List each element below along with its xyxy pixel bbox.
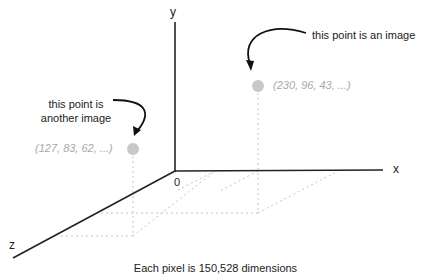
- origin-label: 0: [174, 176, 180, 188]
- projection-lines-left-point: [60, 156, 215, 236]
- data-point-right: [252, 80, 264, 92]
- point-right-coords: (230, 96, 43, ...): [273, 79, 351, 91]
- caption: Each pixel is 150,528 dimensions: [0, 262, 431, 274]
- data-point-left: [127, 143, 139, 155]
- x-axis-label: x: [393, 162, 399, 176]
- arrow-right-icon: [248, 29, 306, 64]
- z-axis-label: z: [9, 238, 15, 252]
- annotation-right: this point is an image: [312, 29, 415, 42]
- y-axis-label: y: [170, 5, 176, 19]
- annotation-left-line1: this point is: [36, 98, 116, 111]
- annotation-left-line2: another image: [36, 112, 116, 125]
- x-axis: [175, 170, 383, 171]
- arrow-left-icon: [113, 100, 145, 130]
- point-left-coords: (127, 83, 62, ...): [35, 142, 113, 154]
- z-axis: [13, 171, 175, 258]
